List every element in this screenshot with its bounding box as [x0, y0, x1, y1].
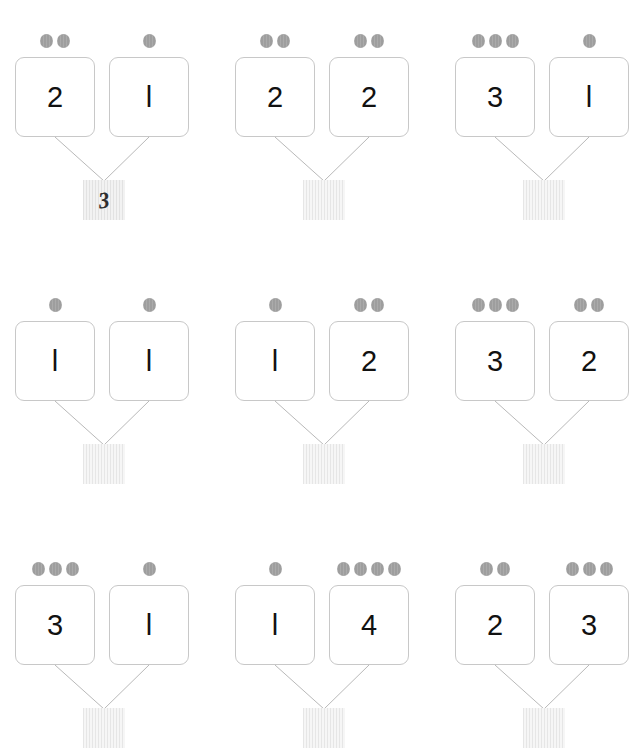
- number-bond-problem: 23: [453, 528, 633, 743]
- connector-lines: [453, 137, 633, 183]
- connector-line-left: [275, 401, 324, 445]
- dot-group-right: [327, 297, 411, 313]
- addend-value-right: l: [146, 611, 152, 640]
- counter-dot-icon: [143, 298, 156, 312]
- addend-box-right[interactable]: 2: [329, 321, 409, 401]
- addend-box-right[interactable]: l: [549, 57, 629, 137]
- answer-box[interactable]: [523, 180, 565, 220]
- counter-dot-icon: [371, 562, 384, 576]
- addend-value-left: 2: [267, 83, 283, 112]
- addend-box-left[interactable]: 3: [455, 321, 535, 401]
- counter-dot-icon: [354, 562, 367, 576]
- counter-dot-icon: [66, 562, 79, 576]
- number-bond-problem: l4: [233, 528, 423, 743]
- addend-box-left[interactable]: 2: [15, 57, 95, 137]
- answer-box[interactable]: [523, 708, 565, 748]
- addend-value-right: l: [146, 347, 152, 376]
- addend-box-right[interactable]: 3: [549, 585, 629, 665]
- counter-dot-icon: [489, 298, 502, 312]
- connector-line-left: [55, 137, 104, 181]
- number-bond-problem: ll: [13, 264, 203, 479]
- dot-group-right: [107, 297, 191, 313]
- connector-line-left: [275, 137, 324, 181]
- dot-group-right: [547, 297, 631, 313]
- addend-value-right: 3: [581, 611, 597, 640]
- addend-value-left: l: [52, 347, 58, 376]
- number-bond-problem: 3l: [453, 0, 633, 215]
- counter-dot-icon: [143, 34, 156, 48]
- counter-dot-icon: [371, 34, 384, 48]
- addend-box-left[interactable]: l: [15, 321, 95, 401]
- addend-box-left[interactable]: 2: [235, 57, 315, 137]
- addend-box-right[interactable]: l: [109, 321, 189, 401]
- counter-dot-icon: [566, 562, 579, 576]
- addend-value-left: 2: [487, 611, 503, 640]
- counter-dot-icon: [506, 34, 519, 48]
- counter-dot-icon: [57, 34, 70, 48]
- connector-line-left: [55, 401, 104, 445]
- answer-box[interactable]: [303, 444, 345, 484]
- number-bond-problem: 22: [233, 0, 423, 215]
- addend-value-left: l: [272, 347, 278, 376]
- addend-box-right[interactable]: l: [109, 585, 189, 665]
- connector-line-right: [324, 665, 369, 709]
- addend-value-left: 3: [47, 611, 63, 640]
- connector-line-right: [104, 137, 149, 181]
- addend-box-left[interactable]: l: [235, 585, 315, 665]
- addend-box-right[interactable]: 4: [329, 585, 409, 665]
- answer-value: 3: [97, 188, 110, 212]
- dot-group-left: [233, 297, 317, 313]
- dot-group-right: [107, 33, 191, 49]
- addend-value-left: 2: [47, 83, 63, 112]
- connector-line-left: [495, 665, 544, 709]
- addend-box-right[interactable]: 2: [549, 321, 629, 401]
- dot-group-left: [233, 561, 317, 577]
- addend-box-right[interactable]: l: [109, 57, 189, 137]
- dot-group-left: [453, 297, 537, 313]
- dot-group-right: [327, 561, 411, 577]
- connector-line-left: [495, 401, 544, 445]
- addend-box-left[interactable]: 2: [455, 585, 535, 665]
- addend-box-right[interactable]: 2: [329, 57, 409, 137]
- counter-dot-icon: [337, 562, 350, 576]
- connector-line-right: [544, 137, 589, 181]
- counter-dot-icon: [574, 298, 587, 312]
- addend-box-left[interactable]: 3: [15, 585, 95, 665]
- connector-lines: [13, 401, 203, 447]
- addend-value-right: l: [586, 83, 592, 112]
- counter-dot-icon: [489, 34, 502, 48]
- addend-box-left[interactable]: 3: [455, 57, 535, 137]
- addend-value-right: 2: [581, 347, 597, 376]
- connector-lines: [233, 401, 423, 447]
- counter-dot-icon: [277, 34, 290, 48]
- connector-line-left: [275, 665, 324, 709]
- answer-box[interactable]: [83, 708, 125, 748]
- dot-group-right: [107, 561, 191, 577]
- number-bond-problem: 32: [453, 264, 633, 479]
- dot-group-left: [453, 561, 537, 577]
- answer-box[interactable]: [83, 444, 125, 484]
- answer-box[interactable]: [303, 708, 345, 748]
- dot-group-right: [547, 33, 631, 49]
- dot-group-left: [233, 33, 317, 49]
- answer-box[interactable]: [303, 180, 345, 220]
- counter-dot-icon: [583, 34, 596, 48]
- addend-value-right: 2: [361, 347, 377, 376]
- connector-line-right: [104, 665, 149, 709]
- counter-dot-icon: [591, 298, 604, 312]
- counter-dot-icon: [388, 562, 401, 576]
- connector-lines: [13, 665, 203, 711]
- connector-lines: [233, 665, 423, 711]
- connector-line-right: [104, 401, 149, 445]
- connector-lines: [453, 401, 633, 447]
- number-bond-problem: 2l3: [13, 0, 203, 215]
- connector-lines: [453, 665, 633, 711]
- addend-value-right: 2: [361, 83, 377, 112]
- counter-dot-icon: [49, 562, 62, 576]
- answer-box[interactable]: 3: [83, 180, 125, 220]
- addend-box-left[interactable]: l: [235, 321, 315, 401]
- counter-dot-icon: [354, 34, 367, 48]
- number-bond-problem: 3l: [13, 528, 203, 743]
- answer-box[interactable]: [523, 444, 565, 484]
- counter-dot-icon: [497, 562, 510, 576]
